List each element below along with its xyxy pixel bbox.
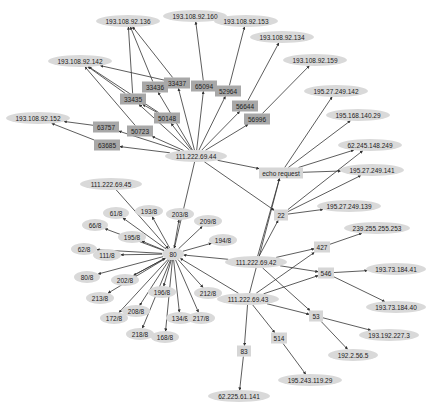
- host-node[interactable]: 111.222.69.44: [165, 150, 227, 162]
- host-node[interactable]: 195.27.249.141: [340, 164, 404, 176]
- host-node[interactable]: 195/8: [118, 231, 146, 243]
- host-node[interactable]: 80: [162, 248, 184, 260]
- host-node[interactable]: 61/8: [103, 207, 129, 219]
- host-node[interactable]: 218/8: [126, 328, 154, 340]
- host-node[interactable]: 195.27.249.139: [317, 200, 381, 212]
- node-label: 50723: [131, 128, 149, 135]
- node-label: 83: [240, 348, 248, 355]
- node-label: 134/8: [172, 315, 189, 322]
- host-node[interactable]: 193.73.184.41: [366, 263, 426, 275]
- host-node[interactable]: 168/8: [151, 331, 179, 343]
- port-node[interactable]: 56644: [232, 101, 258, 112]
- node-label: 217/8: [193, 315, 210, 322]
- edge-arrow: [229, 27, 244, 86]
- host-node[interactable]: 62/8: [71, 243, 97, 255]
- host-node[interactable]: 193.73.184.40: [366, 301, 426, 313]
- node-label: 193/8: [141, 208, 158, 215]
- edge-arrow: [303, 171, 340, 172]
- port-node[interactable]: 83: [237, 346, 251, 357]
- port-node[interactable]: 52964: [215, 86, 241, 97]
- host-node[interactable]: 202/8: [111, 274, 139, 286]
- host-node[interactable]: 193.108.92.136: [96, 15, 160, 27]
- node-label: 63757: [97, 124, 115, 131]
- node-label: 194/8: [215, 237, 232, 244]
- port-node[interactable]: 546: [318, 268, 334, 279]
- host-node[interactable]: 195.243.119.29: [278, 374, 342, 386]
- edge-arrow: [334, 271, 367, 273]
- host-node[interactable]: 209/8: [194, 215, 222, 227]
- host-node[interactable]: 66/8: [82, 219, 108, 231]
- port-node[interactable]: 63757: [93, 122, 119, 133]
- node-label: 111.222.69.44: [176, 153, 217, 160]
- port-node[interactable]: 50723: [127, 126, 153, 137]
- node-label: 202/8: [117, 277, 134, 284]
- host-node[interactable]: 111.222.69.45: [80, 178, 142, 190]
- edge-arrow: [240, 357, 244, 391]
- host-node[interactable]: 111.222.69.43: [217, 293, 279, 305]
- node-label: 111/8: [99, 252, 115, 259]
- node-label: 22: [277, 212, 285, 219]
- port-node[interactable]: 33436: [142, 82, 168, 93]
- edge-arrow: [280, 266, 318, 272]
- host-node[interactable]: 195.168.140.29: [326, 109, 390, 121]
- edge-arrow: [197, 92, 204, 151]
- host-node[interactable]: 196/8: [148, 286, 176, 298]
- node-label: 193.192.227.3: [368, 332, 410, 339]
- host-node[interactable]: 193.108.92.152: [6, 112, 70, 124]
- edge-arrow: [174, 220, 179, 248]
- edge-arrow: [178, 89, 194, 151]
- node-label: 209/8: [200, 218, 217, 225]
- node-label: 65094: [195, 83, 213, 90]
- edge-arrow: [121, 254, 162, 255]
- port-node[interactable]: echo request: [259, 168, 303, 179]
- edge-arrow: [285, 97, 332, 168]
- host-node[interactable]: 172/8: [100, 312, 128, 324]
- port-node[interactable]: 63685: [94, 140, 120, 151]
- host-node[interactable]: 193.108.92.134: [250, 31, 314, 43]
- node-label: 213/8: [92, 295, 109, 302]
- port-node[interactable]: 53: [309, 311, 323, 322]
- node-label: 212/8: [200, 290, 217, 297]
- edge-arrow: [143, 105, 157, 113]
- host-node[interactable]: 195.27.249.142: [304, 85, 368, 97]
- port-node[interactable]: 56996: [244, 114, 270, 125]
- host-node[interactable]: 194/8: [209, 234, 237, 246]
- node-label: 52964: [219, 88, 237, 95]
- edge-arrow: [179, 226, 203, 248]
- host-node[interactable]: 193.192.227.3: [359, 329, 419, 341]
- host-node[interactable]: 193.108.92.159: [283, 54, 347, 66]
- node-label: 192.2.56.5: [338, 352, 369, 359]
- node-label: 193.108.92.134: [259, 34, 305, 41]
- host-node[interactable]: 217/8: [187, 312, 215, 324]
- port-node[interactable]: 65094: [191, 81, 217, 92]
- host-node[interactable]: 212/8: [194, 287, 222, 299]
- edge-arrow: [202, 112, 240, 151]
- host-node[interactable]: 193.108.92.142: [48, 55, 112, 67]
- node-label: 61/8: [110, 210, 123, 217]
- node-label: 111.222.69.42: [236, 259, 277, 266]
- host-node[interactable]: 213/8: [86, 292, 114, 304]
- edge-arrow: [205, 125, 248, 151]
- host-node[interactable]: 111.222.69.42: [225, 256, 287, 268]
- edge-arrow: [100, 66, 164, 80]
- host-node[interactable]: 62.245.148.249: [338, 139, 402, 151]
- host-node[interactable]: 192.2.56.5: [328, 349, 378, 361]
- node-label: 195.243.119.29: [288, 377, 333, 384]
- port-node[interactable]: 514: [271, 333, 287, 344]
- host-node[interactable]: 62.225.61.141: [208, 390, 270, 402]
- host-node[interactable]: 193/8: [135, 205, 163, 217]
- port-node[interactable]: 22: [274, 210, 288, 221]
- node-label: 208/8: [128, 308, 145, 315]
- host-node[interactable]: 80/8: [74, 271, 100, 283]
- port-node[interactable]: 427: [314, 242, 330, 253]
- port-node[interactable]: 33435: [120, 94, 146, 105]
- host-node[interactable]: 203/8: [166, 208, 194, 220]
- host-node[interactable]: 193.108.92.153: [214, 15, 278, 27]
- host-node[interactable]: 239.255.255.253: [344, 222, 410, 234]
- edge-arrow: [199, 97, 225, 151]
- host-node[interactable]: 111/8: [93, 249, 121, 261]
- port-node[interactable]: 50148: [154, 113, 180, 124]
- node-label: 195.27.249.139: [326, 203, 372, 210]
- node-label: 63685: [98, 142, 116, 149]
- node-label: 111.222.69.43: [228, 296, 269, 303]
